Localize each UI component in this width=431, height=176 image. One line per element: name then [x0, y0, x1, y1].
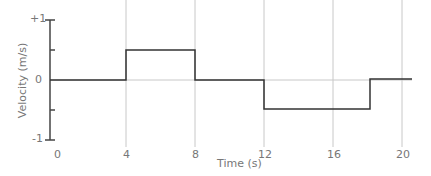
x-tick-4: 4	[123, 148, 130, 161]
y-tick-top: +1	[30, 12, 46, 25]
y-tick-bottom: -1	[32, 132, 43, 145]
x-tick-16: 16	[327, 148, 341, 161]
gridlines	[126, 0, 402, 147]
y-tick-zero: 0	[35, 73, 42, 86]
x-axis-label: Time (s)	[217, 157, 262, 170]
y-axis-label: Velocity (m/s)	[16, 41, 29, 121]
x-tick-0: 0	[54, 148, 61, 161]
velocity-time-chart: +1 0 -1 Velocity (m/s) 0 4 8 12 16 20 Ti…	[0, 0, 431, 176]
x-tick-8: 8	[192, 148, 199, 161]
chart-plot	[0, 0, 431, 176]
x-tick-20: 20	[396, 148, 410, 161]
